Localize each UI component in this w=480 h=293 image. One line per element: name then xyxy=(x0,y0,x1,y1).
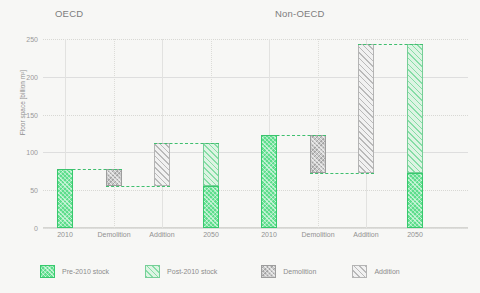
legend-label-pre: Pre-2010 stock xyxy=(62,268,109,275)
y-tick-label-100: 100 xyxy=(12,149,38,156)
waterfall-chart: OECD Non-OECD Floor space [billion m²] 2… xyxy=(0,0,480,293)
bar-non-oecd-2010 xyxy=(261,135,277,228)
legend-label-post: Post-2010 stock xyxy=(167,268,217,275)
x-axis-dotted-rule xyxy=(43,228,468,229)
y-tick-label-150: 150 xyxy=(12,111,38,118)
bar-segment-pre xyxy=(261,135,277,228)
legend: Pre-2010 stockPost-2010 stockDemolitionA… xyxy=(40,261,400,281)
plot-area xyxy=(43,39,468,228)
bar-segment-add xyxy=(154,143,170,186)
bar-non-oecd-2050 xyxy=(407,44,423,228)
bar-segment-pre xyxy=(407,173,423,228)
legend-item-add[interactable]: Addition xyxy=(352,265,399,278)
connector-line xyxy=(154,143,219,144)
gridline-150 xyxy=(43,115,468,116)
legend-swatch-pre xyxy=(40,265,55,278)
x-tick-label-demolition: Demolition xyxy=(97,231,130,238)
x-tick-label-2010: 2010 xyxy=(57,231,73,238)
bar-segment-post xyxy=(203,143,219,186)
vertical-gridline xyxy=(318,39,319,228)
y-axis-ticks: 250200150100500 xyxy=(12,0,38,293)
gridline-50 xyxy=(43,190,468,191)
bar-non-oecd-addition xyxy=(358,44,374,173)
gridline-100 xyxy=(43,152,468,153)
legend-item-pre[interactable]: Pre-2010 stock xyxy=(40,265,109,278)
legend-item-post[interactable]: Post-2010 stock xyxy=(145,265,217,278)
connector-line xyxy=(261,135,326,136)
x-tick-label-2050: 2050 xyxy=(203,231,219,238)
bar-segment-demo xyxy=(106,169,122,186)
bar-oecd-addition xyxy=(154,143,170,186)
panel-title-non-oecd: Non-OECD xyxy=(275,8,325,19)
legend-label-demo: Demolition xyxy=(283,268,316,275)
connector-line xyxy=(310,173,374,174)
y-tick-label-0: 0 xyxy=(12,225,38,232)
bar-non-oecd-demolition xyxy=(310,135,326,173)
vertical-gridline xyxy=(162,39,163,228)
vertical-gridline xyxy=(114,39,115,228)
y-tick-label-50: 50 xyxy=(12,187,38,194)
bar-segment-post xyxy=(407,44,423,173)
legend-swatch-add xyxy=(352,265,367,278)
legend-item-demo[interactable]: Demolition xyxy=(261,265,316,278)
x-tick-label-2050: 2050 xyxy=(407,231,423,238)
bar-segment-demo xyxy=(310,135,326,173)
connector-line xyxy=(57,169,122,170)
gridline-200 xyxy=(43,77,468,78)
bar-oecd-demolition xyxy=(106,169,122,186)
x-tick-label-2010: 2010 xyxy=(261,231,277,238)
x-tick-label-demolition: Demolition xyxy=(301,231,334,238)
bar-oecd-2010 xyxy=(57,169,73,228)
x-tick-label-addition: Addition xyxy=(353,231,378,238)
y-tick-label-200: 200 xyxy=(12,73,38,80)
bar-segment-add xyxy=(358,44,374,173)
legend-label-add: Addition xyxy=(374,268,399,275)
bar-segment-pre xyxy=(203,186,219,228)
connector-line xyxy=(106,186,170,187)
y-tick-label-250: 250 xyxy=(12,36,38,43)
legend-swatch-demo xyxy=(261,265,276,278)
legend-swatch-post xyxy=(145,265,160,278)
x-tick-label-addition: Addition xyxy=(149,231,174,238)
connector-line xyxy=(358,44,423,45)
bar-segment-pre xyxy=(57,169,73,228)
bar-oecd-2050 xyxy=(203,143,219,228)
panel-title-oecd: OECD xyxy=(55,8,83,19)
gridline-250 xyxy=(43,39,468,40)
